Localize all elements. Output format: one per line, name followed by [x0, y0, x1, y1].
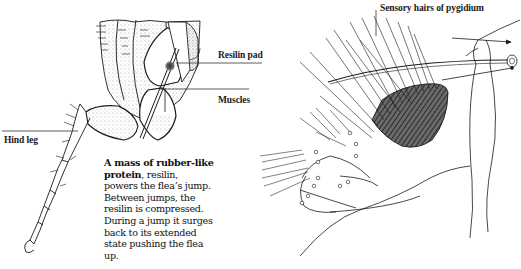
label-resilin-pad: Resilin pad [218, 50, 263, 60]
flea-thorax-drawing [86, 20, 200, 140]
diagram-artwork [0, 0, 521, 269]
flea-diagram: Resilin pad Muscles Hind leg Sensory hai… [0, 0, 521, 269]
caption-resilin: A mass of rubber-like protein, resilin, … [104, 157, 214, 261]
label-sensory-hairs: Sensory hairs of pygidium [380, 3, 484, 13]
resilin-pad-dot [165, 61, 175, 71]
caption-body: , resilin, powers the flea’s jump. Betwe… [104, 169, 213, 261]
pygidium-drawing [260, 16, 520, 256]
hind-leg-drawing [25, 104, 90, 253]
label-hind-leg: Hind leg [4, 135, 38, 145]
label-muscles: Muscles [218, 95, 250, 105]
